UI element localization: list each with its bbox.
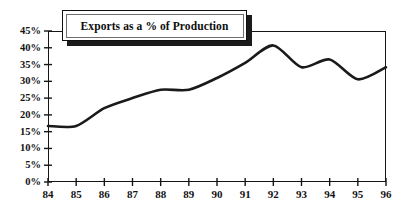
- x-axis-tick-label: 90: [202, 188, 232, 200]
- y-axis-tick-label: 10%: [0, 143, 41, 153]
- chart-title-box: Exports as a % of Production: [62, 10, 247, 41]
- y-axis-tick-label: 5%: [0, 160, 41, 170]
- y-axis-tick-label: 35%: [0, 60, 41, 70]
- y-axis-tick-label: 40%: [0, 43, 41, 53]
- x-axis-tick-label: 92: [258, 188, 288, 200]
- x-axis-tick-label: 93: [287, 188, 317, 200]
- chart-container: 45%40%35%30%25%20%15%10%5%0% 84858687888…: [0, 0, 405, 212]
- x-axis-tick-label: 84: [33, 188, 63, 200]
- x-axis-tick-label: 86: [89, 188, 119, 200]
- y-axis-tick-label: 15%: [0, 127, 41, 137]
- x-axis-tick-label: 88: [146, 188, 176, 200]
- y-axis-tick-label: 25%: [0, 93, 41, 103]
- x-axis-tick-label: 89: [174, 188, 204, 200]
- y-axis-tick-label: 20%: [0, 110, 41, 120]
- x-axis-ticks: [48, 178, 386, 186]
- x-axis-tick-label: 96: [371, 188, 401, 200]
- x-axis-tick-label: 87: [118, 188, 148, 200]
- chart-title: Exports as a % of Production: [81, 20, 229, 32]
- y-axis-tick-label: 45%: [0, 26, 41, 36]
- x-axis-tick-label: 94: [315, 188, 345, 200]
- y-axis-tick-label: 0%: [0, 177, 41, 187]
- y-axis-tick-label: 30%: [0, 76, 41, 86]
- x-axis-tick-label: 95: [343, 188, 373, 200]
- y-axis-ticks: [44, 31, 52, 182]
- x-axis-tick-label: 91: [230, 188, 260, 200]
- data-series-line: [48, 45, 386, 127]
- x-axis-tick-label: 85: [61, 188, 91, 200]
